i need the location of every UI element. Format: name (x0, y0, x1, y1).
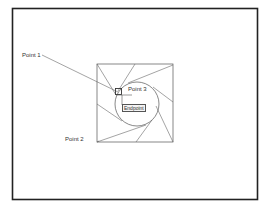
outer-square (97, 64, 173, 142)
tangent-lines (97, 64, 173, 142)
label-point1: Point 1 (22, 52, 41, 58)
label-point3: Point 3 (128, 86, 147, 92)
snap-tooltip-endpoint: Endpoint (122, 104, 146, 112)
label-point2: Point 2 (65, 136, 84, 142)
leader-line-point1 (42, 55, 118, 92)
